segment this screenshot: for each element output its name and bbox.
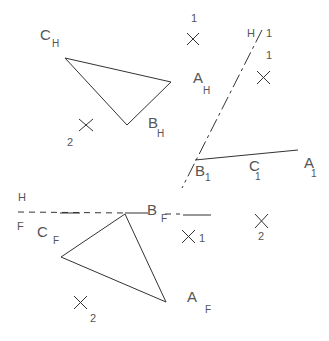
marker-label-2-right: 2 [258, 230, 264, 242]
fold-label-1: 1 [266, 27, 272, 39]
cross-marker-1-h [187, 33, 199, 45]
label-c-1-sub: 1 [255, 171, 261, 182]
label-c-h: C [40, 26, 51, 43]
marker-label-1-aux: 1 [266, 49, 272, 61]
descriptive-geometry-drawing: C H A H B H 1 2 H 1 1 B 1 C [0, 0, 329, 341]
cross-marker-1-f [182, 230, 195, 243]
fold-label-h: H [247, 27, 255, 39]
label-b-f: B [147, 201, 157, 218]
cross-marker-2-h [79, 119, 93, 131]
auxiliary-view-1: 1 B 1 C 1 A 1 [195, 49, 317, 183]
edge-view-abc-aux [195, 150, 298, 160]
label-b-h-sub: H [157, 128, 164, 139]
label-a-f: A [187, 288, 197, 305]
horizontal-view: C H A H B H 1 2 [40, 12, 210, 148]
marker-label-1-h: 1 [191, 12, 197, 24]
marker-label-2-h: 2 [67, 136, 73, 148]
label-a-h: A [193, 69, 203, 86]
marker-label-2-f: 2 [90, 312, 96, 324]
label-a-1-sub: 1 [311, 168, 317, 179]
fold-label-h-top: H [18, 191, 26, 203]
label-b-1-sub: 1 [205, 172, 211, 183]
label-c-h-sub: H [52, 38, 59, 49]
fold-label-f-bottom: F [17, 220, 24, 232]
cross-marker-2-f [74, 296, 87, 309]
frontal-view: C F B F A F 1 2 2 [37, 201, 268, 324]
label-b-1: B [195, 162, 205, 179]
marker-label-1-f: 1 [199, 232, 205, 244]
label-a-f-sub: F [205, 304, 211, 315]
label-b-f-sub: F [161, 213, 167, 224]
cross-marker-1-aux [257, 71, 270, 84]
cross-marker-2-right [255, 214, 268, 228]
triangle-abc-frontal [61, 214, 166, 302]
label-a-h-sub: H [203, 85, 210, 96]
label-c-f: C [37, 223, 48, 240]
label-c-f-sub: F [53, 235, 59, 246]
